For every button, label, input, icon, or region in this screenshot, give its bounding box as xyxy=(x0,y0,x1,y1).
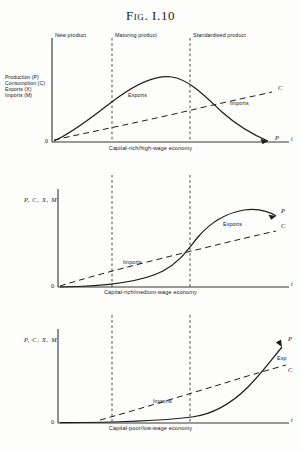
chart-panel-capital-rich-high-wage: New product Maturing product Standardise… xyxy=(0,30,301,160)
y-axis-variable-imports: Imports (M) xyxy=(5,93,45,98)
origin-label-panel-3: 0 xyxy=(51,419,54,425)
y-axis-variables-panel-2: P, C, X, M xyxy=(24,197,57,204)
phase-label-new-product: New product xyxy=(55,33,86,39)
figure-title: Fig. I.10 xyxy=(0,8,301,24)
consumption-letter-panel-3: C xyxy=(288,367,292,374)
production-curve-panel-3 xyxy=(60,347,282,423)
consumption-letter-panel-2: C xyxy=(281,223,285,230)
time-axis-label-panel-1: t xyxy=(291,136,293,142)
consumption-curve-panel-2 xyxy=(60,231,276,286)
panel-caption-3: Capital-poor/low-wage economy xyxy=(0,426,301,432)
y-axis-variables-panel-1: Production (P) Consumption (C) Exports (… xyxy=(5,75,45,99)
phase-label-maturing-product: Maturing product xyxy=(115,33,157,39)
phase-label-standardised-product: Standardised product xyxy=(193,33,246,39)
production-curve-panel-1 xyxy=(54,77,268,141)
chart-panel-capital-poor-low-wage: P, C, X, M Exp Imports P C 0 t Capital-p… xyxy=(0,315,301,450)
imports-label-panel-1: Imports xyxy=(230,101,249,107)
imports-label-panel-3: Imports xyxy=(153,399,172,405)
consumption-letter-panel-1: C xyxy=(278,85,282,92)
production-arrowhead-panel-3 xyxy=(276,339,282,347)
origin-label-panel-2: 0 xyxy=(51,283,54,289)
panel-caption-1: Capital-rich/high-wage economy xyxy=(0,146,301,152)
exports-label-panel-3: Exp xyxy=(277,356,287,362)
figure-container: Fig. I.10 New product Maturing product S… xyxy=(0,0,301,452)
time-axis-label-panel-3: t xyxy=(291,417,293,423)
exports-label-panel-2: Exports xyxy=(223,222,242,228)
chart-panel-capital-rich-medium-wage: P, C, X, M Exports Imports P C 0 t Capit… xyxy=(0,175,301,310)
production-letter-panel-2: P xyxy=(281,208,285,215)
production-letter-panel-1: P xyxy=(275,135,279,142)
panel-caption-2: Capital-rich/medium-wage economy xyxy=(0,290,301,296)
production-curve-panel-2 xyxy=(60,209,276,287)
consumption-curve-panel-3 xyxy=(100,365,286,420)
exports-label-panel-1: Exports xyxy=(128,93,147,99)
imports-label-panel-2: Imports xyxy=(123,260,142,266)
y-axis-variables-panel-3: P, C, X, M xyxy=(24,337,57,344)
time-axis-label-panel-2: t xyxy=(291,281,293,287)
production-letter-panel-3: P xyxy=(288,336,292,343)
origin-label-panel-1: 0 xyxy=(45,138,48,144)
